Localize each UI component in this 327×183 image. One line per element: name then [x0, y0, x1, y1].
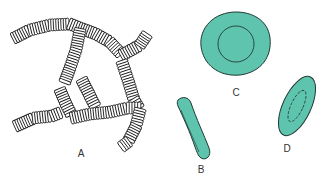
panel-label-d: D	[283, 143, 290, 154]
rouleaux-stacks-a	[10, 18, 153, 152]
panel-label-b: B	[198, 164, 205, 175]
cell-oblique-view-d	[271, 71, 323, 141]
panel-label-c: C	[232, 87, 239, 98]
cell-face-view-c	[201, 12, 270, 75]
panel-label-a: A	[78, 148, 85, 159]
cell-side-view-b	[177, 98, 210, 159]
red-blood-cell-diagram	[0, 0, 327, 183]
